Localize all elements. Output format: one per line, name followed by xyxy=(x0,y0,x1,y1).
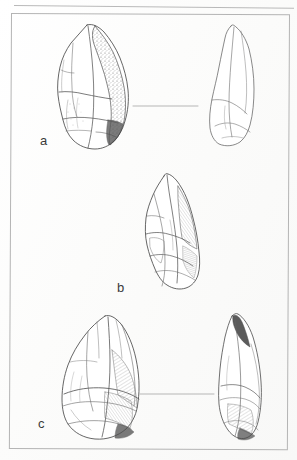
artifact-label-c: c xyxy=(38,417,45,430)
figure-plate: a b c xyxy=(0,0,297,460)
figure-frame-border xyxy=(9,13,290,450)
artifact-label-a: a xyxy=(40,134,47,147)
artifact-label-b: b xyxy=(117,281,124,294)
top-rule-line xyxy=(14,5,294,9)
